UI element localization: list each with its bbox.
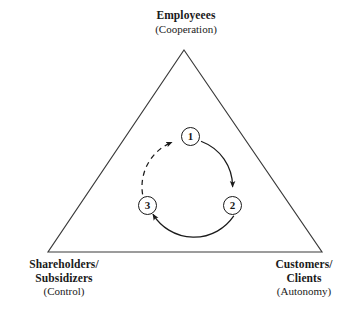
cycle-node-3: 3 (138, 196, 157, 215)
vertex-label-customers: Customers/ Clients (Autonomy) (246, 258, 362, 298)
arc-1-to-2 (202, 142, 233, 187)
vertex-label-employees: Employeees (Cooperation) (106, 9, 266, 36)
vertex-bottom-right-qualifier: (Autonomy) (246, 285, 362, 298)
cycle-node-1: 1 (181, 127, 200, 146)
vertex-label-shareholders: Shareholders/ Subsidizers (Control) (2, 258, 126, 298)
cycle-node-2: 2 (223, 196, 242, 215)
triangle-outline (48, 50, 322, 252)
vertex-bottom-left-name-line1: Shareholders/ (2, 258, 126, 272)
vertex-top-qualifier: (Cooperation) (106, 23, 266, 36)
vertex-top-name: Employeees (106, 9, 266, 23)
arc-2-to-3 (153, 215, 233, 238)
vertex-bottom-left-qualifier: (Control) (2, 285, 126, 298)
arc-3-to-1-dashed (142, 142, 172, 194)
vertex-bottom-right-name-line2: Clients (246, 272, 362, 286)
vertex-bottom-right-name-line1: Customers/ (246, 258, 362, 272)
stakeholder-triangle-diagram: Employeees (Cooperation) Shareholders/ S… (0, 0, 362, 315)
vertex-bottom-left-name-line2: Subsidizers (2, 272, 126, 286)
